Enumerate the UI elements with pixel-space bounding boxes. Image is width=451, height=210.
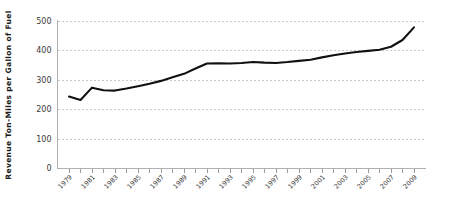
x-tick-label: 1997 (264, 173, 281, 190)
x-tick-label: 1983 (103, 173, 120, 190)
x-tick-label: 1985 (126, 173, 143, 190)
y-tick-label: 200 (36, 105, 51, 114)
x-tick-label: 2007 (379, 173, 396, 190)
revenue-ton-miles-line-chart: 0100200300400500 19791981198319851987198… (0, 0, 451, 210)
chart-container: 0100200300400500 19791981198319851987198… (0, 0, 451, 210)
x-tick-label: 2001 (310, 173, 327, 190)
y-tick-label: 0 (46, 164, 51, 173)
x-tick-marks-group (69, 169, 414, 173)
y-tick-labels-group: 0100200300400500 (36, 17, 51, 173)
y-tick-label: 100 (36, 135, 51, 144)
x-tick-label: 1993 (218, 173, 235, 190)
y-tick-label: 400 (36, 46, 51, 55)
x-tick-label: 1981 (80, 173, 97, 190)
x-tick-labels-group: 1979198119831985198719891991199319951997… (57, 173, 419, 190)
data-series-group (69, 27, 414, 100)
x-tick-label: 1989 (172, 173, 189, 190)
data-series-line (69, 27, 414, 100)
y-tick-label: 300 (36, 76, 51, 85)
x-tick-label: 1991 (195, 173, 212, 190)
y-axis-title-group: Revenue Ton-Miles per Gallon of Fuel (4, 10, 13, 179)
gridlines-group (58, 22, 426, 140)
x-tick-label: 2005 (356, 173, 373, 190)
x-tick-label: 1979 (57, 173, 74, 190)
y-axis-title: Revenue Ton-Miles per Gallon of Fuel (4, 10, 13, 179)
y-tick-label: 500 (36, 17, 51, 26)
x-tick-label: 1995 (241, 173, 258, 190)
x-tick-label: 1999 (287, 173, 304, 190)
x-tick-label: 2003 (333, 173, 350, 190)
x-tick-label: 2009 (402, 173, 419, 190)
x-tick-label: 1987 (149, 173, 166, 190)
